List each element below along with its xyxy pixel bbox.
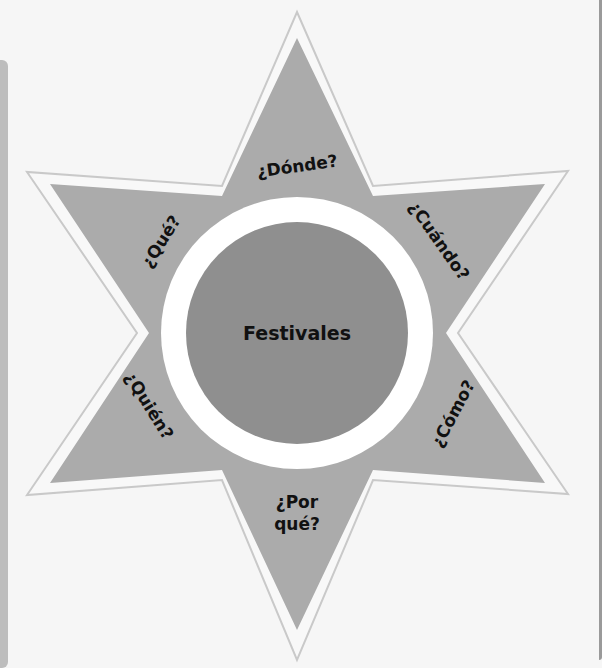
point-label-que-bottom: qué? <box>274 514 320 534</box>
center-label: Festivales <box>243 322 351 344</box>
point-label-por: ¿Por <box>276 492 319 512</box>
